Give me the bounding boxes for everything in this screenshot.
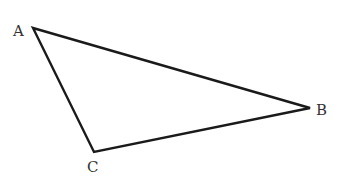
triangle-diagram: A B C xyxy=(0,0,349,177)
diagram-canvas: A B C xyxy=(0,0,349,177)
vertex-label-b: B xyxy=(316,101,327,119)
triangle-abc xyxy=(33,28,310,152)
vertex-label-a: A xyxy=(12,22,24,40)
vertex-label-c: C xyxy=(87,158,98,176)
